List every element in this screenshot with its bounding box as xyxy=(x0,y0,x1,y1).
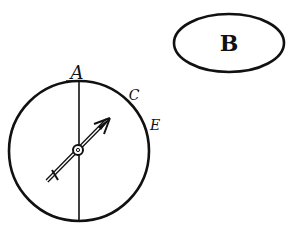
label-b: B xyxy=(220,30,239,56)
label-e: E xyxy=(149,117,160,133)
label-a: A xyxy=(69,62,84,83)
label-c: C xyxy=(129,87,140,103)
diagram-canvas: B A C E xyxy=(0,0,291,230)
